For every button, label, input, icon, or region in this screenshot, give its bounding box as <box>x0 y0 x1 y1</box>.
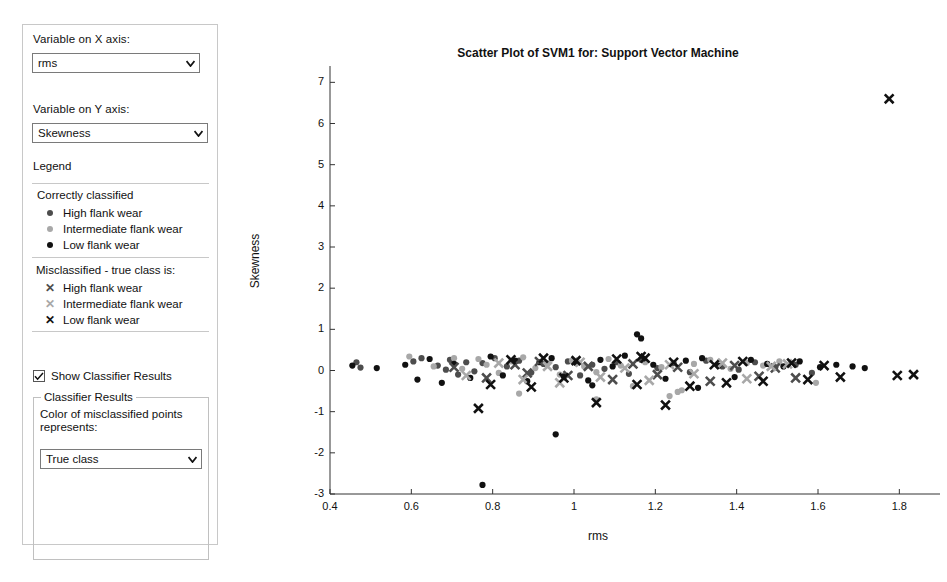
y-tick-label: 5 <box>306 158 324 170</box>
control-panel: Variable on X axis: rms Variable on Y ax… <box>22 24 218 545</box>
plot-canvas <box>256 24 940 524</box>
misclassified-color-select[interactable]: True class <box>40 449 202 469</box>
legend-item-mis-low: ✕ Low flank wear <box>37 312 140 327</box>
chevron-down-icon <box>183 456 201 463</box>
legend-item-correct-intermediate: Intermediate flank wear <box>37 221 183 236</box>
x-tick-label: 0.8 <box>479 500 507 512</box>
classifier-results-text-line2: represents: <box>40 421 200 434</box>
y-tick-label: -1 <box>306 405 324 417</box>
legend-title: Legend <box>33 160 71 172</box>
y-tick-label: 6 <box>306 117 324 129</box>
x-tick-label: 1.6 <box>804 500 832 512</box>
legend-item-correct-high: High flank wear <box>37 205 142 220</box>
classifier-results-text-line1: Color of misclassified points <box>40 408 200 421</box>
y-tick-label: 2 <box>306 281 324 293</box>
classifier-results-group-title: Classifier Results <box>41 391 136 403</box>
legend-label: Intermediate flank wear <box>63 223 183 235</box>
chevron-down-icon <box>181 60 199 67</box>
y-axis-variable-select[interactable]: Skewness <box>32 123 208 143</box>
legend-divider-bottom <box>32 331 209 332</box>
legend-item-mis-high: ✕ High flank wear <box>37 280 142 295</box>
y-tick-label: 3 <box>306 240 324 252</box>
misclassified-color-value: True class <box>41 453 183 465</box>
y-tick-label: 4 <box>306 199 324 211</box>
y-tick-label: 1 <box>306 322 324 334</box>
x-marker-icon: ✕ <box>37 282 63 294</box>
legend-divider-top <box>32 183 209 184</box>
dot-icon <box>37 242 63 248</box>
y-tick-label: 0 <box>306 364 324 376</box>
legend-correct-title: Correctly classified <box>37 189 134 201</box>
y-axis-variable-value: Skewness <box>33 127 189 139</box>
series-dot <box>349 331 868 488</box>
y-tick-label: 7 <box>306 75 324 87</box>
y-axis-variable-label: Variable on Y axis: <box>33 103 130 115</box>
x-marker-icon: ✕ <box>37 314 63 326</box>
legend-label: Low flank wear <box>63 239 140 251</box>
x-axis-label: rms <box>256 529 940 543</box>
legend-label: High flank wear <box>63 282 142 294</box>
x-axis-variable-select[interactable]: rms <box>32 53 200 73</box>
legend-item-mis-intermediate: ✕ Intermediate flank wear <box>37 296 183 311</box>
show-classifier-results-label: Show Classifier Results <box>51 370 172 382</box>
x-tick-label: 1 <box>560 500 588 512</box>
x-tick-label: 1.2 <box>641 500 669 512</box>
x-marker-icon: ✕ <box>37 298 63 310</box>
legend-label: High flank wear <box>63 207 142 219</box>
legend-item-correct-low: Low flank wear <box>37 237 140 252</box>
scatter-plot: Scatter Plot of SVM1 for: Support Vector… <box>256 24 940 564</box>
legend-divider-mid <box>32 257 209 258</box>
x-tick-label: 1.4 <box>723 500 751 512</box>
check-icon <box>33 370 45 382</box>
y-tick-label: -3 <box>306 487 324 499</box>
y-tick-label: -2 <box>306 446 324 458</box>
dot-icon <box>37 226 63 232</box>
x-tick-label: 1.8 <box>885 500 913 512</box>
x-axis-variable-value: rms <box>33 57 181 69</box>
show-classifier-results-checkbox[interactable]: Show Classifier Results <box>33 370 172 382</box>
legend-misclassified-title: Misclassified - true class is: <box>36 264 175 276</box>
x-axis-variable-label: Variable on X axis: <box>33 33 130 45</box>
dot-icon <box>37 210 63 216</box>
legend-label: Low flank wear <box>63 314 140 326</box>
x-tick-label: 0.6 <box>397 500 425 512</box>
chevron-down-icon <box>189 130 207 137</box>
x-tick-label: 0.4 <box>316 500 344 512</box>
legend-label: Intermediate flank wear <box>63 298 183 310</box>
